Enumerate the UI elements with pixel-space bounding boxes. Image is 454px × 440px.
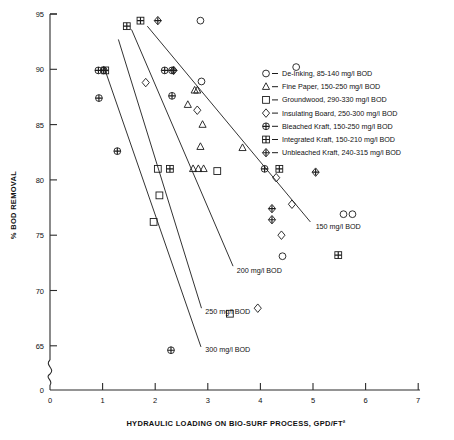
data-point: [279, 253, 286, 260]
data-point: [268, 204, 275, 213]
x-tick-label: 5: [311, 396, 315, 405]
legend-item-label: Groundwood, 290-330 mg/l BOD: [282, 95, 387, 104]
data-point: [194, 106, 201, 115]
data-points-layer: [95, 16, 356, 353]
data-point: [239, 144, 246, 151]
bod-removal-scatter-chart: 95908580757065001234567 150 mg/l BOD200 …: [0, 0, 454, 440]
data-point: [199, 121, 206, 128]
data-point: [137, 17, 144, 24]
legend-item-label: Fine Paper, 150-250 mg/l BOD: [282, 82, 380, 91]
data-point: [288, 200, 295, 209]
y-tick-label: 70: [36, 287, 44, 296]
series-square-open: [150, 165, 233, 317]
data-point: [150, 219, 157, 226]
data-point: [335, 252, 342, 259]
line-annotations-layer: 150 mg/l BOD200 mg/l BOD250 mg/l BOD300 …: [205, 222, 361, 355]
data-point: [142, 78, 149, 87]
data-point: [167, 165, 174, 172]
data-point: [114, 148, 121, 155]
data-point: [154, 16, 161, 25]
legend-symbol-square-open: [263, 97, 270, 104]
legend-symbol-circle-open: [263, 70, 270, 77]
y-tick-label: 90: [36, 65, 44, 74]
data-point: [278, 231, 285, 240]
data-point: [161, 67, 168, 74]
x-tick-label: 7: [416, 396, 420, 405]
trend-line-label: 200 mg/l BOD: [237, 266, 282, 275]
x-tick-label: 1: [101, 396, 105, 405]
legend-item-label: De-Inking, 85-140 mg/l BOD: [282, 69, 372, 78]
data-point: [214, 168, 221, 175]
x-axis-title: HYDRAULIC LOADING ON BIO-SURF PROCESS, G…: [126, 419, 345, 428]
legend-item-label: Bleached Kraft, 150-250 mg/l BOD: [282, 122, 393, 131]
legend-item-label: Integrated Kraft, 150-210 mg/l BOD: [282, 135, 395, 144]
legend-symbol-square-cross: [263, 136, 270, 143]
x-tick-label: 2: [153, 396, 157, 405]
data-point: [197, 143, 204, 150]
trend-line-label: 250 mg/l BOD: [205, 307, 250, 316]
legend-symbol-triangle-open: [262, 83, 269, 90]
x-tick-label: 6: [364, 396, 368, 405]
y-tick-label: 80: [36, 176, 44, 185]
legend-item-label: Insulating Board, 250-300 mg/l BOD: [282, 109, 397, 118]
x-tick-label: 3: [206, 396, 210, 405]
legend-item-label: Unbleached Kraft, 240-315 mg/l BOD: [282, 148, 401, 157]
data-point: [197, 17, 204, 24]
trend-line: [104, 66, 201, 347]
y-tick-label: 85: [36, 121, 44, 130]
legend: De-Inking, 85-140 mg/l BODFine Paper, 15…: [262, 69, 401, 157]
trend-line: [118, 39, 201, 308]
y-axis-title: % BOD REMOVAL: [9, 171, 18, 239]
data-point: [276, 165, 283, 172]
data-point: [198, 78, 205, 85]
legend-symbol-diamond-cross: [262, 148, 269, 157]
y-tick-label-zero: 0: [40, 386, 44, 395]
series-diamond-cross: [154, 16, 319, 224]
y-axis-break-squiggle: [48, 360, 52, 385]
chart-root: 95908580757065001234567 150 mg/l BOD200 …: [0, 0, 454, 440]
y-tick-label: 95: [36, 10, 44, 19]
data-point: [349, 211, 356, 218]
x-tick-label: 4: [258, 396, 262, 405]
trend-line: [132, 29, 234, 266]
data-point: [123, 23, 130, 30]
series-triangle-open: [184, 86, 246, 171]
data-point: [254, 304, 261, 313]
trend-line-label: 300 mg/l BOD: [205, 345, 250, 354]
data-point: [268, 215, 275, 224]
axis-titles-layer: % BOD REMOVALHYDRAULIC LOADING ON BIO-SU…: [9, 171, 346, 428]
trend-lines-layer: [104, 26, 311, 347]
data-point: [312, 168, 319, 177]
data-point: [156, 192, 163, 199]
data-point: [169, 92, 176, 99]
legend-symbol-circle-cross: [263, 123, 270, 130]
data-point: [102, 67, 109, 74]
data-point: [184, 101, 191, 108]
data-point: [340, 211, 347, 218]
x-tick-label: 0: [48, 396, 52, 405]
legend-symbol-diamond-open: [262, 109, 269, 118]
data-point: [168, 347, 175, 354]
trend-line-label: 150 mg/l BOD: [316, 222, 361, 231]
data-point: [261, 165, 268, 172]
y-tick-label: 75: [36, 231, 44, 240]
y-tick-label: 65: [36, 342, 44, 351]
data-point: [96, 95, 103, 102]
